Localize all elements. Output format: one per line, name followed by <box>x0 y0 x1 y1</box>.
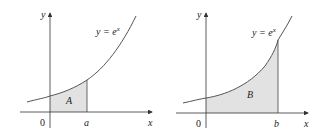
x-axis-label: x <box>303 118 309 129</box>
bound-label-b: b <box>274 118 279 129</box>
origin-label: 0 <box>196 118 201 129</box>
region-label-a: A <box>65 95 73 106</box>
origin-label: 0 <box>40 117 45 128</box>
diagram-canvas: y x 0 a A y = ex y x 0 b B y = ex <box>0 0 324 135</box>
panel-left: y x 0 a A y = ex <box>20 9 153 128</box>
panel-right: y x 0 b B y = ex <box>176 9 309 129</box>
bound-label-a: a <box>84 117 89 128</box>
region-label-b: B <box>247 89 253 100</box>
region-b-fill <box>206 40 278 113</box>
y-axis-label: y <box>196 9 202 20</box>
x-axis-label: x <box>147 117 153 128</box>
curve-label: y = ex <box>95 25 121 37</box>
y-axis-label: y <box>40 9 46 20</box>
curve-label: y = ex <box>251 26 277 38</box>
